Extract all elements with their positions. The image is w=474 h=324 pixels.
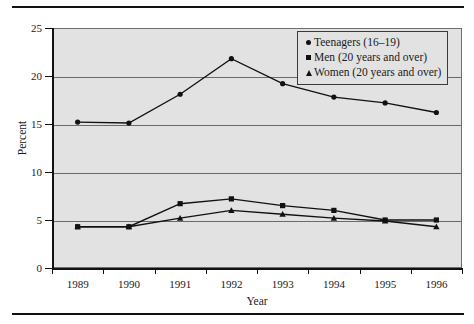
data-point-1-4 bbox=[280, 203, 285, 208]
legend-item-women: Women (20 years and over) bbox=[303, 65, 441, 80]
data-point-0-0 bbox=[75, 119, 80, 124]
line-chart-figure: 0510152025 19891990199119921993199419951… bbox=[0, 0, 474, 324]
y-tick-label-25: 25 bbox=[16, 23, 42, 34]
x-tick-mark-1 bbox=[103, 268, 104, 274]
triangle-marker-icon bbox=[303, 70, 314, 76]
bottom-horizontal-rule bbox=[12, 313, 464, 315]
y-tick-mark-0 bbox=[45, 268, 52, 269]
x-tick-label-1990: 1990 bbox=[103, 278, 154, 290]
x-tick-label-1989: 1989 bbox=[52, 278, 103, 290]
data-point-0-7 bbox=[434, 110, 439, 115]
x-tick-label-1995: 1995 bbox=[360, 278, 411, 290]
y-tick-mark-15 bbox=[45, 124, 52, 125]
x-tick-mark-0 bbox=[52, 268, 53, 274]
x-tick-mark-7 bbox=[411, 268, 412, 274]
data-point-0-1 bbox=[126, 120, 131, 125]
y-tick-label-0: 0 bbox=[16, 263, 42, 274]
data-point-0-2 bbox=[178, 92, 183, 97]
data-point-0-3 bbox=[229, 56, 234, 61]
legend-label-teenagers: Teenagers (16–19) bbox=[314, 36, 400, 49]
data-point-0-4 bbox=[280, 81, 285, 86]
y-tick-label-20: 20 bbox=[16, 71, 42, 82]
data-point-1-5 bbox=[331, 208, 336, 213]
x-axis-title: Year bbox=[52, 295, 462, 307]
data-point-1-7 bbox=[434, 217, 439, 222]
y-tick-mark-5 bbox=[45, 220, 52, 221]
square-marker-icon bbox=[303, 55, 314, 60]
x-tick-label-1996: 1996 bbox=[411, 278, 462, 290]
circle-marker-icon bbox=[303, 40, 314, 45]
x-tick-label-1993: 1993 bbox=[257, 278, 308, 290]
y-tick-label-5: 5 bbox=[16, 215, 42, 226]
x-tick-mark-3 bbox=[206, 268, 207, 274]
x-tick-mark-5 bbox=[308, 268, 309, 274]
data-point-1-2 bbox=[178, 201, 183, 206]
x-tick-label-1994: 1994 bbox=[308, 278, 359, 290]
x-tick-label-1991: 1991 bbox=[155, 278, 206, 290]
x-tick-label-1992: 1992 bbox=[206, 278, 257, 290]
x-tick-mark-8 bbox=[462, 268, 463, 274]
legend-label-men: Men (20 years and over) bbox=[314, 51, 427, 64]
legend-label-women: Women (20 years and over) bbox=[314, 66, 441, 79]
legend-item-teenagers: Teenagers (16–19) bbox=[303, 35, 441, 50]
top-horizontal-rule bbox=[12, 6, 464, 8]
data-point-0-5 bbox=[331, 95, 336, 100]
x-tick-mark-6 bbox=[360, 268, 361, 274]
y-tick-mark-20 bbox=[45, 76, 52, 77]
x-tick-mark-4 bbox=[257, 268, 258, 274]
y-axis-title: Percent bbox=[16, 108, 28, 168]
data-point-1-3 bbox=[229, 196, 234, 201]
legend-item-men: Men (20 years and over) bbox=[303, 50, 441, 65]
y-tick-label-10: 10 bbox=[16, 167, 42, 178]
data-point-0-6 bbox=[383, 100, 388, 105]
y-tick-mark-25 bbox=[45, 28, 52, 29]
y-tick-mark-10 bbox=[45, 172, 52, 173]
chart-legend: Teenagers (16–19) Men (20 years and over… bbox=[297, 31, 448, 85]
x-tick-mark-2 bbox=[155, 268, 156, 274]
